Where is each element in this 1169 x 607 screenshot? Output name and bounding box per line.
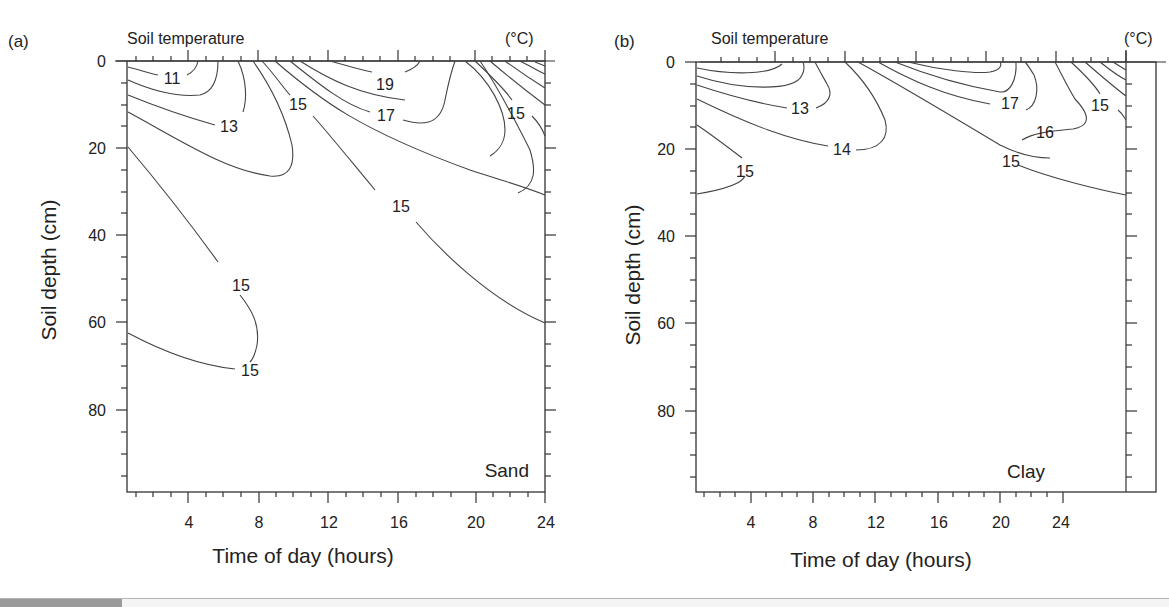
svg-text:24: 24 [1052,514,1070,531]
y-tick-labels: 0 20 40 60 80 [657,54,675,420]
bottom-bar-tab [0,599,122,607]
svg-text:60: 60 [88,314,106,331]
svg-text:17: 17 [377,107,395,124]
y-axis-label: Soil depth (cm) [621,204,644,345]
svg-text:40: 40 [657,228,675,245]
left-ticks [116,61,127,476]
contour-labels: 11 13 15 19 17 15 15 15 15 [164,70,525,379]
bottom-ticks [136,492,545,503]
x-tick-labels: 4 8 12 16 20 24 [185,514,555,531]
contour-lines [697,62,1126,195]
svg-text:15: 15 [1091,97,1109,114]
svg-text:14: 14 [833,141,851,158]
x-axis-label: Time of day (hours) [212,544,393,567]
svg-text:40: 40 [88,227,106,244]
svg-text:15: 15 [392,198,410,215]
svg-text:4: 4 [185,514,194,531]
y-tick-labels: 0 20 40 60 80 [88,53,106,419]
svg-text:13: 13 [791,100,809,117]
x-tick-labels: 4 8 12 16 20 24 [747,514,1070,531]
soil-type-label: Clay [1007,461,1046,482]
svg-text:15: 15 [241,362,259,379]
svg-text:15: 15 [289,96,307,113]
plot-frame [127,61,545,492]
bottom-ticks [704,492,1063,503]
figure: (a) Soil temperature (°C) [0,0,1169,598]
unit-label: (°C) [1124,30,1153,47]
svg-text:19: 19 [376,76,394,93]
svg-text:24: 24 [537,514,555,531]
svg-text:12: 12 [867,514,885,531]
svg-text:20: 20 [467,514,485,531]
top-ticks [721,51,1126,62]
svg-text:15: 15 [507,105,525,122]
svg-text:15: 15 [736,163,754,180]
svg-text:8: 8 [809,514,818,531]
svg-text:80: 80 [88,402,106,419]
top-label: Soil temperature [127,30,244,47]
x-axis-label: Time of day (hours) [790,548,971,571]
top-label: Soil temperature [711,30,828,47]
svg-text:60: 60 [657,315,675,332]
svg-text:11: 11 [164,70,181,87]
svg-text:80: 80 [657,403,675,420]
contour-lines [128,61,545,369]
panel-b: (b) Soil temperature (°C) [614,30,1166,571]
svg-text:16: 16 [390,514,408,531]
svg-text:12: 12 [320,514,338,531]
svg-text:16: 16 [1036,124,1054,141]
panel-a: (a) Soil temperature (°C) [8,30,556,567]
y-axis-label: Soil depth (cm) [37,199,60,340]
svg-text:17: 17 [1001,95,1019,112]
svg-text:16: 16 [930,514,948,531]
right-ticks [1126,84,1137,477]
svg-text:20: 20 [657,141,675,158]
panel-label: (a) [8,32,29,51]
svg-text:15: 15 [1002,153,1020,170]
right-ticks [545,83,556,476]
unit-label: (°C) [505,30,534,47]
soil-type-label: Sand [485,460,529,481]
svg-text:8: 8 [255,514,264,531]
bottom-bar [0,598,1169,607]
plot-frame [696,62,1156,492]
svg-text:0: 0 [97,53,106,70]
svg-text:4: 4 [747,514,756,531]
left-ticks [685,62,696,477]
svg-text:20: 20 [992,514,1010,531]
panel-label: (b) [614,32,635,51]
top-ticks [136,50,545,61]
svg-text:15: 15 [232,277,250,294]
svg-text:20: 20 [88,140,106,157]
svg-text:13: 13 [220,118,238,135]
svg-text:0: 0 [666,54,675,71]
